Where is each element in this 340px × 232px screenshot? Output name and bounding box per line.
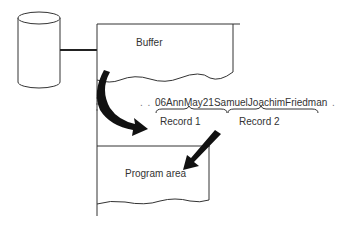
buffer-label: Buffer [136, 37, 163, 48]
program-area-label: Program area [125, 168, 186, 179]
record-2-label: Record 2 [239, 116, 280, 127]
record-1-label: Record 1 [160, 116, 201, 127]
straight-arrow-icon [183, 130, 221, 170]
data-stream: 06AnnMay21SamuelJoachimFriedman [155, 97, 327, 108]
disk-icon [18, 12, 60, 88]
trailing-dots: . . . [317, 97, 336, 108]
